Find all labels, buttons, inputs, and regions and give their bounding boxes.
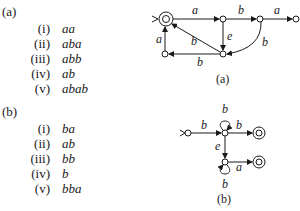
diagram-a-labels: a b a e b b b a (a) (156, 3, 280, 86)
state (162, 51, 168, 57)
svg-text:a: a (274, 3, 280, 17)
start-arrow-icon (180, 130, 185, 136)
svg-text:b: b (236, 118, 242, 132)
svg-text:b: b (238, 3, 244, 17)
svg-text:a: a (192, 3, 198, 17)
svg-text:b: b (191, 34, 197, 48)
figure-b-caption: (b) (217, 192, 231, 206)
state (220, 51, 226, 57)
svg-text:e: e (215, 139, 221, 153)
figure-a-caption: (a) (216, 72, 229, 86)
diagram-b-labels: b b b e a b (b) (201, 102, 242, 206)
svg-text:a: a (236, 160, 242, 174)
svg-text:b: b (262, 35, 268, 49)
state (293, 16, 299, 22)
svg-text:b: b (201, 118, 207, 132)
state (222, 130, 228, 136)
svg-text:e: e (227, 29, 233, 43)
svg-text:b: b (222, 102, 228, 116)
state (222, 159, 228, 165)
state (220, 16, 226, 22)
state-start (185, 130, 191, 136)
diagram-b (180, 121, 265, 174)
state (257, 16, 263, 22)
automata-diagrams: a b a e b b b a (a) b b b e a b (b) (0, 0, 300, 211)
diagram-a (152, 12, 299, 57)
svg-text:b: b (197, 55, 203, 69)
svg-text:a: a (156, 32, 162, 46)
state-accepting (253, 127, 265, 139)
state-start-accepting (159, 12, 173, 26)
state-accepting (253, 156, 265, 168)
svg-text:b: b (222, 177, 228, 191)
start-arrow-icon (152, 16, 158, 22)
